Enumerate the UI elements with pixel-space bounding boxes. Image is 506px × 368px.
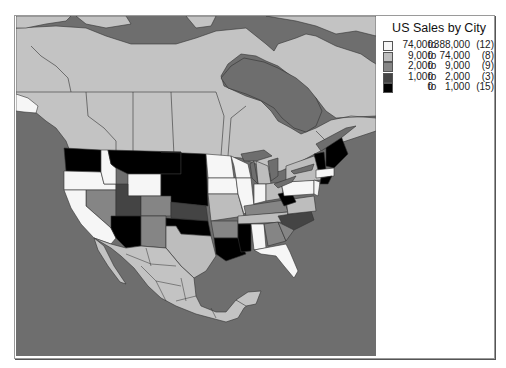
legend-high: 388,000 xyxy=(434,40,470,50)
legend-to: to xyxy=(428,61,436,71)
legend-swatch xyxy=(383,52,393,62)
legend-count: (15) xyxy=(476,82,494,92)
legend-count: (8) xyxy=(482,51,494,61)
legend: US Sales by City 74,000 to 388,000 (12) … xyxy=(380,20,494,93)
legend-swatch xyxy=(383,83,393,93)
north-america-map xyxy=(16,16,376,356)
legend-to: to xyxy=(428,82,436,92)
legend-swatch xyxy=(383,73,393,83)
legend-count: (3) xyxy=(482,72,494,82)
legend-to: to xyxy=(428,51,436,61)
legend-count: (12) xyxy=(476,40,494,50)
legend-count: (9) xyxy=(482,61,494,71)
legend-to: to xyxy=(428,72,436,82)
legend-high: 9,000 xyxy=(445,61,470,71)
legend-title: US Sales by City xyxy=(384,20,494,40)
legend-swatch xyxy=(383,41,393,51)
legend-row: 2,000 to 9,000 (9) xyxy=(380,61,494,72)
legend-row: 74,000 to 388,000 (12) xyxy=(380,40,494,51)
legend-row: 0 to 1,000 (15) xyxy=(380,82,494,93)
legend-high: 74,000 xyxy=(439,51,470,61)
legend-swatch xyxy=(383,62,393,72)
legend-row: 9,000 to 74,000 (8) xyxy=(380,51,494,62)
legend-high: 1,000 xyxy=(445,82,470,92)
legend-high: 2,000 xyxy=(445,72,470,82)
map-area[interactable] xyxy=(16,16,376,356)
